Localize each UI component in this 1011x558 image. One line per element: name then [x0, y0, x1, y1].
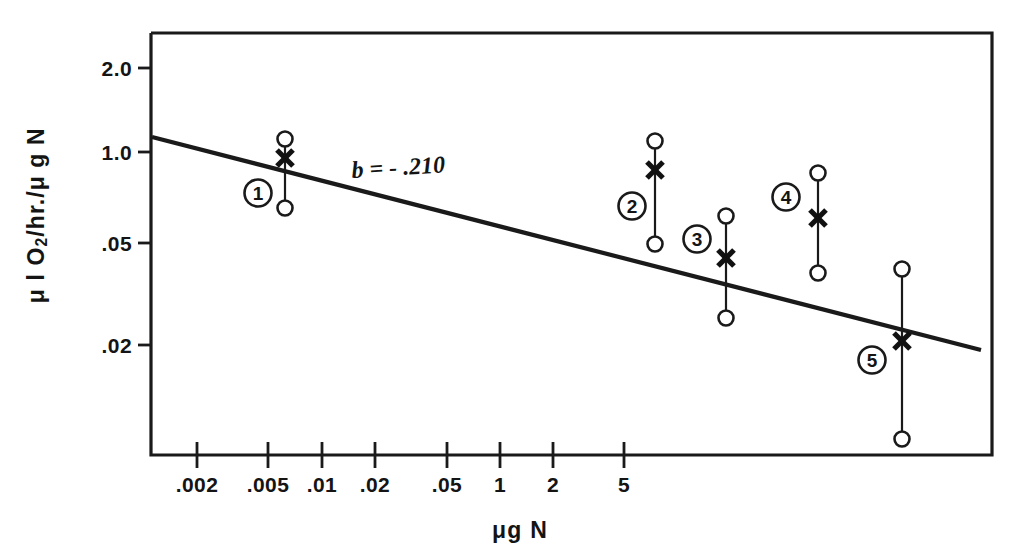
- range-high-marker: [719, 209, 734, 224]
- range-low-marker: [278, 201, 293, 216]
- range-high-marker: [895, 262, 910, 277]
- data-group-4: 4: [773, 166, 827, 281]
- data-group-3: 3: [684, 209, 735, 326]
- group-badge-label-1: 1: [253, 183, 264, 204]
- y-tick-label: .05: [102, 232, 132, 255]
- y-tick-label: .02: [102, 334, 132, 357]
- figure-canvas: μ l O2/hr./μ g N 2.0 1.0 .05 .02 .: [0, 0, 1011, 558]
- data-group-5: 5: [859, 262, 911, 447]
- range-low-marker: [719, 311, 734, 326]
- group-badge-label-2: 2: [627, 196, 638, 217]
- x-axis-tick-labels: .002 .005 .01 .02 .05 1 2 5: [176, 473, 630, 496]
- x-tick-label: 5: [618, 473, 630, 496]
- x-tick-label: .005: [247, 473, 289, 496]
- range-low-marker: [811, 266, 826, 281]
- plot-area: 2.0 1.0 .05 .02 .002 .005 .01 .02 .05 1 …: [0, 0, 1011, 558]
- range-high-marker: [648, 134, 663, 149]
- data-group-1: 1: [245, 132, 294, 216]
- range-low-marker: [895, 432, 910, 447]
- range-high-marker: [278, 132, 293, 147]
- x-tick-label: .05: [432, 473, 462, 496]
- range-low-marker: [648, 237, 663, 252]
- x-tick-label: .002: [176, 473, 218, 496]
- x-tick-label: .02: [360, 473, 390, 496]
- x-tick-label: 1: [494, 473, 506, 496]
- regression-line: [152, 137, 981, 350]
- y-tick-label: 2.0: [102, 57, 132, 80]
- slope-annotation: b = - .210: [351, 151, 446, 183]
- group-badge-label-4: 4: [781, 187, 792, 208]
- group-badge-label-5: 5: [867, 350, 878, 371]
- x-axis-title: μg N: [492, 517, 548, 543]
- y-axis-ticks: [138, 68, 151, 345]
- data-group-2: 2: [619, 134, 664, 252]
- x-tick-label: .01: [307, 473, 337, 496]
- x-tick-label: 2: [547, 473, 559, 496]
- y-axis-tick-labels: 2.0 1.0 .05 .02: [102, 57, 132, 357]
- range-high-marker: [811, 166, 826, 181]
- group-badge-label-3: 3: [692, 229, 703, 250]
- y-tick-label: 1.0: [102, 141, 132, 164]
